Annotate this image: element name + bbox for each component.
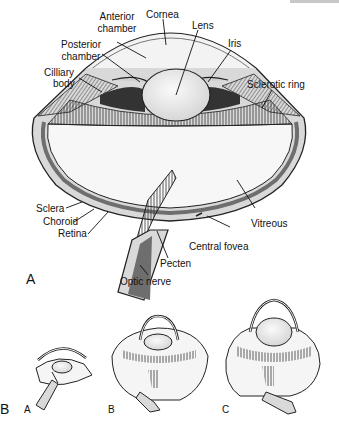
label-choroid: Choroid bbox=[43, 216, 78, 227]
label-anterior-chamber-1: Anterior bbox=[92, 11, 142, 22]
label-cornea: Cornea bbox=[146, 9, 179, 20]
label-ciliary-body-2: body bbox=[53, 78, 75, 89]
panel-label-a: A bbox=[26, 271, 35, 287]
label-ciliary-body-1: Cilliary bbox=[44, 67, 74, 78]
label-optic-nerve: Optic nerve bbox=[120, 276, 171, 287]
sub-eye-c-label: C bbox=[222, 404, 229, 415]
label-posterior-chamber-1: Posterior bbox=[56, 39, 106, 50]
label-posterior-chamber-2: chamber bbox=[56, 51, 106, 62]
sub-eye-a-label: A bbox=[24, 404, 31, 415]
label-central-fovea: Central fovea bbox=[189, 241, 248, 252]
label-retina: Retina bbox=[58, 228, 87, 239]
label-pecten: Pecten bbox=[160, 258, 191, 269]
panel-label-b: B bbox=[0, 401, 9, 417]
sub-eye-a bbox=[36, 348, 92, 410]
label-lens: Lens bbox=[192, 20, 214, 31]
label-sclera: Sclera bbox=[36, 203, 64, 214]
label-anterior-chamber-2: chamber bbox=[92, 23, 142, 34]
sub-eye-c bbox=[226, 300, 320, 414]
sub-eye-b bbox=[112, 316, 208, 412]
label-iris: Iris bbox=[228, 38, 241, 49]
label-sclerotic-ring: Sclerotic ring bbox=[247, 79, 305, 90]
label-vitreous: Vitreous bbox=[251, 218, 288, 229]
sub-eye-b-label: B bbox=[108, 404, 115, 415]
